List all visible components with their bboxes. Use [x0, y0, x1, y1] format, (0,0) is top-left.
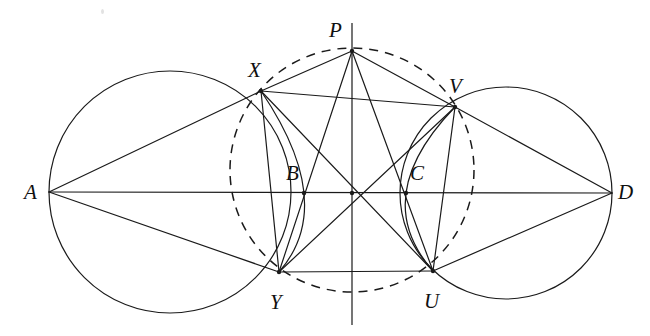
vertex-dot-c	[404, 191, 408, 195]
segment-DV	[455, 107, 612, 193]
vertex-dot-u	[431, 269, 435, 273]
label-a: A	[24, 182, 37, 203]
pentagon-side-YU	[279, 271, 433, 272]
label-b: B	[286, 163, 299, 184]
diagonal-XV	[261, 91, 455, 107]
circles-group	[49, 48, 612, 313]
pentagon-side-XY	[261, 91, 279, 272]
label-c: C	[410, 163, 424, 184]
pentagon-side-UV	[433, 107, 455, 271]
segment-AY	[49, 192, 279, 272]
pentagon-side-PX	[261, 51, 352, 91]
vertex-dot-x	[259, 89, 263, 93]
vertex-dot-b	[302, 191, 306, 195]
vertex-dot-v	[453, 105, 457, 109]
vertex-dot-center	[350, 191, 354, 195]
segment-AX	[49, 91, 261, 192]
diagonal-YV	[279, 107, 455, 272]
label-x: X	[248, 60, 261, 81]
label-p: P	[329, 20, 342, 41]
label-v: V	[449, 76, 462, 97]
label-y: Y	[270, 292, 282, 313]
figure-canvas	[0, 0, 650, 336]
geometry-figure: ADPXVYUBC	[0, 0, 650, 336]
label-u: U	[424, 291, 439, 312]
segments-group	[49, 51, 612, 272]
baseline-AD	[49, 192, 612, 193]
scan-artifact	[101, 9, 104, 14]
label-d: D	[618, 182, 633, 203]
segment-DU	[433, 193, 612, 271]
vertex-dot-y	[277, 270, 281, 274]
vertex-dot-p	[350, 49, 354, 53]
